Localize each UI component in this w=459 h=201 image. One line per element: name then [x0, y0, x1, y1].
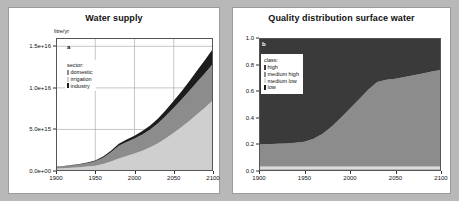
legend-item: irrigation — [67, 76, 93, 83]
panel-letter-a: a — [67, 44, 70, 50]
legend-item: medium low — [264, 78, 299, 85]
plot-area-water-supply — [56, 38, 213, 171]
y-tick-label: 1.0 — [246, 35, 254, 41]
x-tick-mark — [396, 171, 397, 174]
legend-swatch-icon — [67, 83, 69, 88]
legend-item-label: medium low — [268, 78, 297, 85]
legend-item: industry — [67, 83, 93, 90]
panel-letter-b: b — [262, 41, 266, 47]
x-tick-mark — [441, 171, 442, 174]
panel-quality-distribution: Quality distribution surface water b cla… — [232, 7, 451, 194]
x-tick-mark — [213, 171, 214, 174]
x-tick-label: 2100 — [434, 175, 447, 181]
x-tick-mark — [135, 171, 136, 174]
legend-item-label: industry — [71, 83, 90, 90]
y-tick-mark — [53, 87, 56, 88]
x-tick-mark — [259, 171, 260, 174]
legend-item-label: medium high — [268, 71, 300, 78]
x-tick-mark — [174, 171, 175, 174]
legend-swatch-icon — [264, 72, 266, 77]
x-tick-mark — [305, 171, 306, 174]
y-tick-label: 5.0e+15 — [29, 126, 51, 132]
legend-title-sector: sector: — [67, 62, 93, 69]
legend-swatch-icon — [67, 77, 69, 82]
x-tick-label: 2100 — [206, 175, 219, 181]
y-tick-mark — [256, 144, 259, 145]
y-tick-label: 0.4 — [246, 115, 254, 121]
x-tick-mark — [56, 171, 57, 174]
legend-item: high — [264, 64, 299, 71]
x-tick-label: 2000 — [343, 175, 356, 181]
legend-item-label: high — [268, 64, 278, 71]
y-tick-label: 0.0 — [246, 168, 254, 174]
panel-water-supply: Water supply litre/yr a sector: domestic… — [8, 7, 220, 194]
legend-item: domestic — [67, 69, 93, 76]
y-tick-mark — [256, 64, 259, 65]
legend-item-label: domestic — [71, 69, 93, 76]
y-tick-mark — [53, 129, 56, 130]
x-tick-label: 2050 — [389, 175, 402, 181]
y-tick-mark — [256, 91, 259, 92]
legend-water-supply: sector: domesticirrigationindustry — [65, 60, 96, 91]
x-tick-label: 2050 — [167, 175, 180, 181]
x-tick-mark — [350, 171, 351, 174]
x-tick-mark — [95, 171, 96, 174]
y-tick-label: 1.0e+16 — [29, 85, 51, 91]
area-series-medium-low — [259, 166, 441, 169]
legend-quality-distribution: class: highmedium highmedium lowlow — [261, 54, 303, 94]
y-tick-mark — [53, 46, 56, 47]
y-tick-label: 1.5e+16 — [29, 43, 51, 49]
legend-swatch-icon — [67, 70, 69, 75]
x-tick-label: 2000 — [128, 175, 141, 181]
legend-item-label: irrigation — [71, 76, 92, 83]
chart-title-quality-distribution: Quality distribution surface water — [233, 13, 450, 23]
chart-title-water-supply: Water supply — [9, 13, 219, 23]
y-axis-unit-label-left: litre/yr — [54, 28, 69, 34]
y-tick-mark — [256, 38, 259, 39]
y-tick-label: 0.6 — [246, 88, 254, 94]
legend-title-class: class: — [264, 57, 299, 64]
y-tick-mark — [256, 117, 259, 118]
x-tick-label: 1950 — [89, 175, 102, 181]
y-tick-label: 0.8 — [246, 62, 254, 68]
x-tick-label: 1900 — [252, 175, 265, 181]
y-tick-label: 0.0e+00 — [29, 168, 51, 174]
stacked-area-chart-water-supply — [56, 38, 213, 171]
legend-item-label: low — [268, 84, 276, 91]
legend-swatch-icon — [264, 85, 266, 90]
x-tick-label: 1900 — [49, 175, 62, 181]
x-tick-label: 1950 — [298, 175, 311, 181]
y-tick-label: 0.2 — [246, 141, 254, 147]
legend-swatch-icon — [264, 65, 266, 70]
legend-item: medium high — [264, 71, 299, 78]
figure-container: Water supply litre/yr a sector: domestic… — [0, 0, 459, 201]
legend-swatch-icon — [264, 78, 266, 83]
legend-item: low — [264, 84, 299, 91]
